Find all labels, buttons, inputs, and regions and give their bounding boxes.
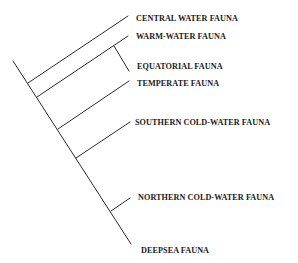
branch-warm <box>37 36 128 97</box>
label-northern-cold-water-fauna: NORTHERN COLD-WATER FAUNA <box>138 194 274 202</box>
trunk-line <box>13 61 131 244</box>
label-equatorial-fauna: EQUATORIAL FAUNA <box>137 63 223 71</box>
branch-equatorial <box>114 46 129 71</box>
fauna-cladogram: CENTRAL WATER FAUNA WARM-WATER FAUNA EQU… <box>0 0 298 263</box>
label-deepsea-fauna: DEEPSEA FAUNA <box>141 247 209 255</box>
branch-central <box>28 16 128 83</box>
branch-northern <box>111 198 130 211</box>
label-southern-cold-water-fauna: SOUTHERN COLD-WATER FAUNA <box>135 119 270 127</box>
branch-temperate <box>58 81 129 129</box>
label-central-water-fauna: CENTRAL WATER FAUNA <box>136 15 238 23</box>
branch-southern <box>76 122 130 158</box>
label-warm-water-fauna: WARM-WATER FAUNA <box>136 33 226 41</box>
label-temperate-fauna: TEMPERATE FAUNA <box>137 80 219 88</box>
